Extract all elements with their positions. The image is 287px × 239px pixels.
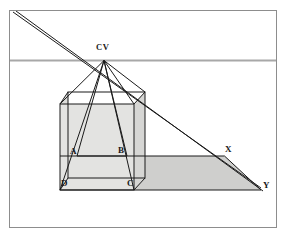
label-cv: CV bbox=[96, 43, 109, 52]
label-a: A bbox=[70, 147, 77, 156]
perspective-diagram bbox=[0, 0, 287, 239]
figure-canvas: CV A B D C X Y bbox=[0, 0, 287, 239]
label-x: X bbox=[225, 145, 232, 154]
label-b: B bbox=[118, 146, 124, 155]
cube-right-face-shading bbox=[134, 92, 145, 190]
label-d: D bbox=[61, 179, 68, 188]
label-c: C bbox=[127, 179, 134, 188]
label-y: Y bbox=[263, 181, 270, 190]
